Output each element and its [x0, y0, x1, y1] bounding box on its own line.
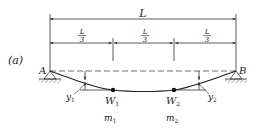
panel-label: (a)	[8, 54, 23, 67]
mass-2-dot	[172, 88, 176, 92]
deflected-beam-curve	[50, 71, 236, 92]
mass-1-label: m1	[104, 113, 116, 124]
weight-2-label: W2	[166, 95, 180, 107]
beam-deflection-diagram: L L 3 L 3 L 3 (a) A B	[0, 0, 263, 129]
mass-1-dot	[111, 88, 115, 92]
segment-1-label: L 3	[78, 28, 86, 44]
svg-text:3: 3	[80, 36, 85, 44]
support-a-label: A	[38, 65, 46, 76]
mass-2-label: m2	[166, 113, 179, 124]
weight-1-label: W1	[105, 95, 119, 107]
svg-text:3: 3	[205, 36, 210, 44]
segment-3-label: L 3	[203, 28, 211, 44]
segment-2-label: L 3	[141, 28, 149, 44]
support-b-label: B	[238, 65, 246, 76]
y1-label: y1	[65, 92, 75, 103]
svg-text:3: 3	[143, 36, 148, 44]
span-label: L	[138, 7, 146, 20]
svg-text:L: L	[204, 28, 210, 36]
svg-text:L: L	[79, 28, 85, 36]
y2-label: y2	[207, 92, 217, 103]
svg-text:L: L	[142, 28, 148, 36]
